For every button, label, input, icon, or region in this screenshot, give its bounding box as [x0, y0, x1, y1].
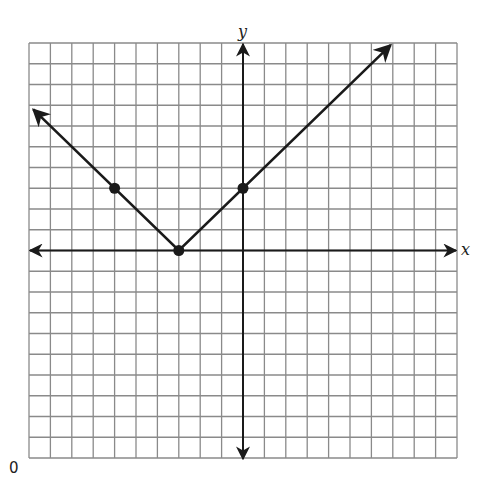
data-point	[173, 245, 184, 256]
axes	[30, 44, 456, 459]
absolute-value-line	[33, 45, 390, 250]
corner-zero-label: 0	[9, 461, 19, 476]
data-point	[109, 183, 120, 194]
data-point	[238, 183, 249, 194]
graph-line	[33, 45, 390, 250]
x-axis-label: x	[461, 242, 470, 258]
y-axis-label: y	[238, 24, 247, 40]
coordinate-plane	[0, 0, 495, 502]
